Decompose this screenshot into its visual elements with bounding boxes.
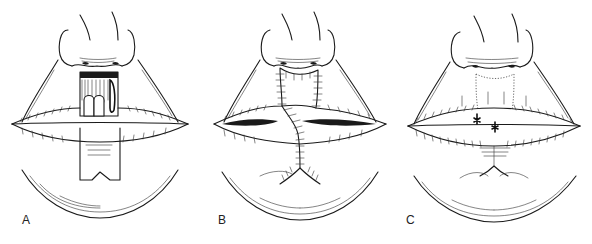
panel-c-label: C (406, 214, 415, 226)
panel-a-drawing (0, 0, 200, 244)
panel-a-label: A (22, 214, 30, 226)
panel-c-drawing (396, 0, 592, 244)
surgical-illustration: A (0, 0, 592, 244)
panel-b: B (200, 0, 396, 244)
panel-a: A (0, 0, 200, 244)
panel-b-drawing (200, 0, 396, 244)
panel-b-label: B (218, 214, 226, 226)
panel-c: C (396, 0, 592, 244)
